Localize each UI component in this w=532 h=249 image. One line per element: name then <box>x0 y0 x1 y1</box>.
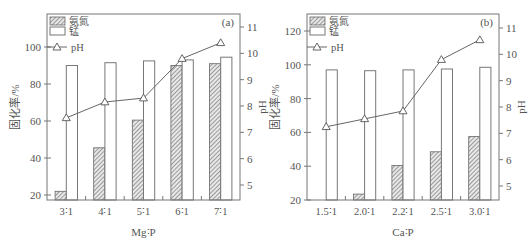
x-tick-label: 2.5∶1 <box>431 206 452 217</box>
bar-manganese <box>480 67 491 200</box>
chart-panel-a: 204060801005678910113∶14∶15∶16∶17∶1Mg∶P固… <box>8 14 268 238</box>
y-axis-title: 固化率/% <box>268 84 281 129</box>
y-tick-label: 20 <box>30 189 42 201</box>
triangle-marker-icon <box>437 56 445 63</box>
bar-manganese <box>66 66 77 201</box>
y2-tick-label: 10 <box>506 48 518 60</box>
x-axis-title: Mg∶P <box>131 226 155 238</box>
y-tick-label: 100 <box>25 41 42 53</box>
y-tick-label: 100 <box>285 59 302 71</box>
y2-tick-label: 10 <box>247 47 259 59</box>
bar-ammonia <box>430 152 441 200</box>
y2-tick-label: 11 <box>247 21 258 33</box>
y2-tick-label: 9 <box>247 74 253 86</box>
panel-label: (a) <box>222 16 235 29</box>
y2-tick-label: 5 <box>506 180 512 192</box>
triangle-marker-icon <box>476 36 484 43</box>
x-tick-label: 2.0∶1 <box>354 206 375 217</box>
bar-manganese <box>221 57 232 200</box>
y-tick-label: 80 <box>30 78 42 90</box>
y-tick-label: 80 <box>290 93 302 105</box>
y2-tick-label: 7 <box>247 126 253 138</box>
panel-label: (b) <box>480 16 493 29</box>
bar-ammonia <box>392 165 403 200</box>
y2-tick-label: 8 <box>506 101 512 113</box>
legend-label-ph: pH <box>331 42 344 53</box>
legend-label-manganese: 锰 <box>69 25 79 37</box>
bar-manganese <box>182 60 193 200</box>
y2-tick-label: 8 <box>247 100 253 112</box>
bar-ammonia <box>210 64 221 200</box>
triangle-marker-icon <box>178 55 186 62</box>
bar-manganese <box>441 69 452 200</box>
bar-ammonia <box>94 148 105 200</box>
x-tick-label: 4∶1 <box>98 206 112 217</box>
x-tick-label: 3∶1 <box>60 206 74 217</box>
bar-manganese <box>144 61 155 200</box>
x-axis-title: Ca∶P <box>392 226 413 238</box>
bar-ammonia <box>469 137 480 200</box>
x-tick-label: 5∶1 <box>137 206 151 217</box>
x-tick-label: 1.5∶1 <box>316 206 337 217</box>
y-tick-label: 60 <box>290 126 302 138</box>
bar-ammonia <box>171 66 182 201</box>
figure: 204060801005678910113∶14∶15∶16∶17∶1Mg∶P固… <box>0 0 532 249</box>
legend-label-manganese: 锰 <box>329 25 339 37</box>
legend-swatch-manganese <box>50 27 65 35</box>
legend-swatch-manganese <box>310 27 325 35</box>
y2-tick-label: 7 <box>506 127 512 139</box>
bar-manganese <box>105 63 116 200</box>
legend-swatch-ammonia <box>310 17 325 25</box>
bar-manganese <box>365 71 376 200</box>
chart-panel-b: 204060801001205678910111.5∶12.0∶12.2∶12.… <box>268 14 527 238</box>
y2-tick-label: 6 <box>247 153 253 165</box>
y2-tick-label: 9 <box>506 75 512 87</box>
legend-label-ph: pH <box>71 42 84 53</box>
y-tick-label: 120 <box>285 25 302 37</box>
legend-swatch-ammonia <box>50 17 65 25</box>
bar-manganese <box>326 70 337 200</box>
bar-ammonia <box>354 194 365 200</box>
chart-canvas: 204060801005678910113∶14∶15∶16∶17∶1Mg∶P固… <box>0 0 532 249</box>
y2-axis-title: pH <box>515 100 527 114</box>
y2-tick-label: 5 <box>247 179 253 191</box>
y-tick-label: 60 <box>30 115 42 127</box>
bar-manganese <box>403 70 414 200</box>
bar-ammonia <box>132 120 143 200</box>
y-tick-label: 40 <box>290 160 302 172</box>
triangle-marker-icon <box>217 39 225 46</box>
y-axis-title: 固化率/% <box>8 84 21 129</box>
y-tick-label: 20 <box>290 194 302 206</box>
bar-ammonia <box>55 191 66 200</box>
x-tick-label: 2.2∶1 <box>392 206 413 217</box>
x-tick-label: 6∶1 <box>175 206 189 217</box>
x-tick-label: 3.0∶1 <box>469 206 490 217</box>
y2-tick-label: 11 <box>506 22 517 34</box>
y2-tick-label: 6 <box>506 154 512 166</box>
y2-axis-title: pH <box>256 100 268 114</box>
x-tick-label: 7∶1 <box>214 206 228 217</box>
y-tick-label: 40 <box>30 152 42 164</box>
